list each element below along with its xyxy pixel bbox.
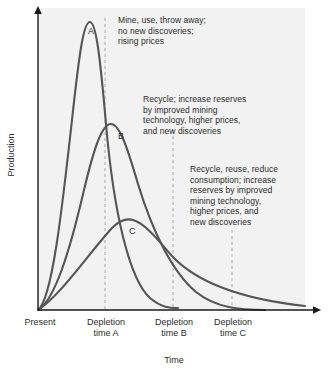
x-tick-present: Present [12,317,68,328]
x-tick-depletion-c: Depletion time C [202,317,264,339]
x-axis-arrow [313,306,321,314]
y-axis-title: Production [6,123,16,187]
annotation-curve-b: Recycle; increase reserves by improved m… [143,94,246,136]
curve-label-a: A [88,27,94,36]
x-tick-depletion-a: Depletion time A [75,317,137,339]
plot-background [38,8,305,310]
x-tick-depletion-b: Depletion time B [143,317,205,339]
curve-label-b: B [118,132,124,141]
annotation-curve-c: Recycle, reuse, reduce consumption; incr… [190,164,278,228]
annotation-curve-a: Mine, use, throw away; no new discoverie… [118,15,206,47]
x-axis-title: Time [143,355,205,365]
production-depletion-chart: Mine, use, throw away; no new discoverie… [0,0,332,379]
curve-label-c: C [129,227,136,236]
